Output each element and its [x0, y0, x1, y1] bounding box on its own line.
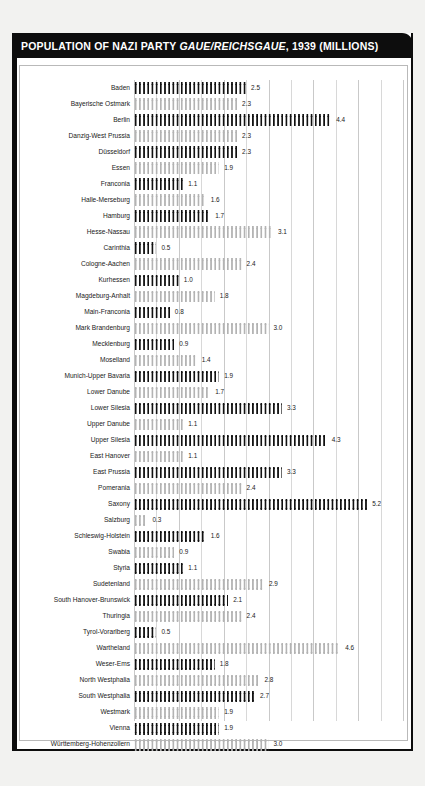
bar-value-label: 1.1: [188, 453, 197, 459]
bar-figure-legs: [134, 604, 228, 606]
bar-value-label: 3.1: [278, 229, 287, 235]
row-bar-area: 1.0: [134, 272, 403, 288]
bar-value-label: 4.4: [336, 117, 345, 123]
row-bar-area: 4.3: [134, 432, 403, 448]
bar-figure-legs: [134, 284, 179, 286]
bar-figure-legs: [134, 92, 246, 94]
chart-title-bar: POPULATION OF NAZI PARTY GAUE/REICHSGAUE…: [12, 33, 413, 58]
pictogram-bar: [134, 356, 197, 364]
row-label: Upper Silesia: [24, 437, 134, 444]
bar-figure-legs: [134, 524, 147, 526]
chart-row: Munich-Upper Bavaria1.9: [24, 368, 403, 384]
chart-row: Lower Silesia3.3: [24, 400, 403, 416]
bar-value-label: 1.7: [215, 213, 224, 219]
row-label: Moselland: [24, 357, 134, 364]
chart-row: South Hanover-Brunswick2.1: [24, 593, 403, 609]
pictogram-bar: [134, 212, 210, 220]
bar-value-label: 1.9: [224, 709, 233, 715]
bar-value-label: 1.4: [202, 357, 211, 363]
title-prefix: POPULATION OF NAZI PARTY: [21, 40, 179, 52]
bar-figure-legs: [134, 588, 264, 590]
chart-row: Berlin4.4: [24, 112, 403, 128]
bar-figure-legs: [134, 300, 215, 302]
row-bar-area: 2.4: [134, 480, 403, 496]
bar-figure-legs: [134, 172, 219, 174]
bar-value-label: 1.0: [184, 277, 193, 283]
chart-row: Franconia1.1: [24, 176, 403, 192]
bar-figure-legs: [134, 268, 242, 270]
pictogram-bar: [134, 468, 282, 476]
bar-figure-legs: [134, 204, 206, 206]
bar-value-label: 2.4: [247, 485, 256, 491]
row-label: Cologne-Aachen: [24, 261, 134, 268]
bar-figure-legs: [134, 252, 156, 254]
pictogram-bar: [134, 244, 156, 252]
bar-figure-legs: [134, 556, 174, 558]
row-label: Mark Brandenburg: [24, 325, 134, 332]
bar-figure-legs: [134, 652, 340, 654]
row-bar-area: 3.1: [134, 224, 403, 240]
pictogram-bar: [134, 148, 237, 156]
row-bar-area: 0.5: [134, 240, 403, 256]
bar-figure-legs: [134, 460, 183, 462]
bar-value-label: 1.9: [224, 165, 233, 171]
pictogram-bar: [134, 292, 215, 300]
row-bar-area: 2.4: [134, 256, 403, 272]
row-label: Württemberg-Hohenzollern: [24, 741, 134, 748]
bar-value-label: 1.8: [220, 293, 229, 299]
row-label: Main-Franconia: [24, 309, 134, 316]
chart-row: Tyrol-Vorarlberg0.5: [24, 625, 403, 641]
title-suffix: , 1939 (MILLIONS): [286, 40, 379, 52]
bar-figure-legs: [134, 572, 183, 574]
row-bar-area: 2.3: [134, 144, 403, 160]
bar-figure-legs: [134, 316, 170, 318]
pictogram-bar: [134, 276, 179, 284]
chart-row: East Hanover1.1: [24, 448, 403, 464]
chart-row: Schleswig-Holstein1.6: [24, 528, 403, 544]
pictogram-bar: [134, 596, 228, 604]
bar-figure-legs: [134, 140, 237, 142]
bar-value-label: 1.8: [220, 661, 229, 667]
chart-row: Wartheland4.6: [24, 641, 403, 657]
chart-row: Upper Danube1.1: [24, 416, 403, 432]
row-bar-area: 1.1: [134, 448, 403, 464]
bar-figure-legs: [134, 188, 183, 190]
pictogram-bar: [134, 404, 282, 412]
bar-value-label: 1.1: [188, 181, 197, 187]
row-bar-area: 2.7: [134, 689, 403, 705]
row-label: Schleswig-Holstein: [24, 533, 134, 540]
pictogram-bar: [134, 324, 269, 332]
bar-value-label: 1.1: [188, 565, 197, 571]
bar-value-label: 3.3: [287, 405, 296, 411]
bar-value-label: 1.6: [211, 197, 220, 203]
row-label: Berlin: [24, 117, 134, 124]
bar-figure-legs: [134, 412, 282, 414]
row-label: North Westphalia: [24, 677, 134, 684]
bar-value-label: 0.5: [161, 629, 170, 635]
bar-value-label: 3.3: [287, 469, 296, 475]
chart-row: Magdeburg-Anhalt1.8: [24, 288, 403, 304]
row-bar-area: 0.8: [134, 304, 403, 320]
chart-rows: Baden2.5Bayerische Ostmark2.3Berlin4.4Da…: [24, 80, 403, 753]
chart-row: Bayerische Ostmark2.3: [24, 96, 403, 112]
chart-row: Westmark1.9: [24, 705, 403, 721]
row-bar-area: 1.1: [134, 560, 403, 576]
pictogram-bar: [134, 372, 219, 380]
pictogram-bar: [134, 420, 183, 428]
chart-row: Mark Brandenburg3.0: [24, 320, 403, 336]
bar-value-label: 4.6: [345, 645, 354, 651]
chart-row: Danzig-West Prussia2.3: [24, 128, 403, 144]
row-bar-area: 1.8: [134, 657, 403, 673]
pictogram-bar: [134, 436, 327, 444]
row-label: Sudetenland: [24, 581, 134, 588]
row-label: East Hanover: [24, 453, 134, 460]
bar-figure-legs: [134, 348, 174, 350]
bar-value-label: 2.3: [242, 101, 251, 107]
chart-row: Württemberg-Hohenzollern3.0: [24, 737, 403, 753]
pictogram-bar: [134, 340, 174, 348]
bar-value-label: 3.0: [274, 741, 283, 747]
pictogram-bar: [134, 164, 219, 172]
pictogram-bar: [134, 100, 237, 108]
row-label: Carinthia: [24, 245, 134, 252]
bar-figure-legs: [134, 396, 210, 398]
